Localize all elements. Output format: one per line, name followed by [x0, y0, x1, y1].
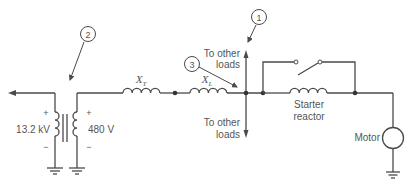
- junction-dot: [244, 91, 249, 96]
- upper-loads-label-line1: To other: [204, 48, 241, 59]
- lower-loads-label-line2: loads: [216, 129, 240, 140]
- motor-icon: [383, 128, 404, 149]
- secondary-plus: +: [86, 108, 91, 118]
- starter-reactor-inductor: [290, 88, 327, 93]
- line-reactance-inductor: [190, 88, 227, 93]
- ground-icon: [47, 168, 63, 174]
- callout-1: 1: [248, 10, 267, 43]
- svg-text:1: 1: [256, 13, 261, 23]
- svg-text:3: 3: [189, 60, 194, 70]
- junction-dot: [353, 91, 358, 96]
- secondary-voltage-label: 480 V: [88, 124, 114, 135]
- starter-reactor-label-line1: Starter: [294, 99, 325, 110]
- primary-minus: −: [43, 142, 48, 152]
- starter-reactor-label-line2: reactor: [293, 111, 325, 122]
- upper-loads-label-line2: loads: [216, 59, 240, 70]
- callout-2: 2: [70, 27, 96, 81]
- secondary-minus: −: [86, 142, 91, 152]
- xt-label: XT: [135, 73, 148, 88]
- bypass-switch: [263, 60, 355, 93]
- junction-dot: [173, 91, 178, 96]
- ground-icon: [386, 172, 400, 178]
- circuit-diagram: + − 13.2 kV + − 480 V 2 XT XL 3 To other: [0, 0, 409, 187]
- source-feed: [8, 90, 55, 96]
- lower-loads-label-line1: To other: [204, 117, 241, 128]
- transformer-reactance-inductor: [123, 88, 160, 93]
- ground-icon: [69, 168, 85, 174]
- motor-label: Motor: [354, 132, 380, 143]
- xl-label: XL: [201, 73, 213, 88]
- transformer-symbol: [55, 93, 77, 168]
- svg-text:2: 2: [85, 30, 90, 40]
- primary-plus: +: [43, 108, 48, 118]
- primary-voltage-label: 13.2 kV: [16, 124, 50, 135]
